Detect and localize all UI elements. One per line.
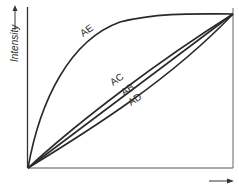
y-axis-label: Intensity (9, 24, 20, 62)
y-axis-label-group: Intensity (9, 5, 20, 62)
intensity-diagram: Intensity AE AC AB AD (0, 0, 239, 185)
x-arrowhead-icon (227, 179, 234, 184)
y-arrowhead-icon (13, 5, 18, 11)
label-ae: AE (78, 22, 96, 39)
